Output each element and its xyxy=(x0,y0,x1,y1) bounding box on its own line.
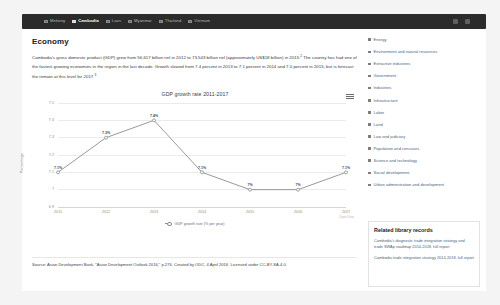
sidebar-topic-label: Labor xyxy=(374,110,384,116)
chart-plot-area: 7.57.47.37.27.176.9 7.1%7.3%7.4%7.1%7%7%… xyxy=(58,103,346,207)
data-point-label: 7.1% xyxy=(54,166,62,170)
x-tick-label: 2016 xyxy=(294,210,302,214)
nav-tab-laos[interactable]: Laos xyxy=(106,19,121,23)
bullet-icon xyxy=(368,147,371,150)
data-point-label: 7% xyxy=(247,183,252,187)
x-tick-label: 2017 xyxy=(342,210,350,214)
sidebar-topic-labor[interactable]: Labor xyxy=(368,110,480,116)
sidebar-topic-label: Industries xyxy=(374,85,392,91)
related-records-list: Cambodia's diagnostic trade integration … xyxy=(374,238,474,261)
nav-tab-label: Cambodia xyxy=(78,19,99,23)
bullet-icon xyxy=(368,123,371,126)
y-tick-label: 7.5 xyxy=(49,101,54,105)
data-point-label: 7% xyxy=(295,183,300,187)
flag-icon xyxy=(106,20,110,23)
sidebar-topic-label: Extractive industries xyxy=(374,61,411,67)
source-divider xyxy=(32,257,356,258)
sidebar-topic-government[interactable]: Government xyxy=(368,73,480,79)
country-tabs: MekongCambodiaLaosMyanmarThailandVietnam xyxy=(44,19,210,23)
nav-tab-mekong[interactable]: Mekong xyxy=(44,19,65,23)
sidebar-topic-extractive-industries[interactable]: Extractive industries xyxy=(368,61,480,67)
sidebar-topic-industries[interactable]: Industries xyxy=(368,85,480,91)
bullet-icon xyxy=(368,75,371,78)
flag-icon xyxy=(128,20,132,23)
y-tick-label: 7.4 xyxy=(49,118,54,122)
bullet-icon xyxy=(368,51,371,54)
y-tick-label: 7.3 xyxy=(49,135,54,139)
sidebar-topic-environment-and-natural-resources[interactable]: Environment and natural resources xyxy=(368,49,480,55)
nav-tab-vietnam[interactable]: Vietnam xyxy=(188,19,210,23)
hamburger-menu-icon[interactable] xyxy=(346,93,354,100)
sidebar-topic-science-and-technology[interactable]: Science and technology xyxy=(368,158,480,164)
nav-tab-label: Vietnam xyxy=(194,19,210,23)
sidebar-topic-label: Social development xyxy=(374,170,410,176)
y-tick-label: 6.9 xyxy=(49,205,54,209)
flag-icon xyxy=(159,20,163,23)
chart-line-series xyxy=(58,103,346,207)
x-tick-label: 2012 xyxy=(102,210,110,214)
chart-credit: Open Data xyxy=(339,215,354,219)
x-tick-label: 2014 xyxy=(198,210,206,214)
page-root: MekongCambodiaLaosMyanmarThailandVietnam… xyxy=(0,0,500,305)
top-navigation-bar: MekongCambodiaLaosMyanmarThailandVietnam xyxy=(22,14,486,29)
chart-title: GDP growth rate 2011-2017 xyxy=(32,91,358,97)
sidebar-topic-label: Urban administration and development xyxy=(374,182,444,188)
bullet-icon xyxy=(368,159,371,162)
legend-swatch-icon xyxy=(165,223,171,224)
menu-icon[interactable] xyxy=(465,19,470,24)
x-tick-label: 2011 xyxy=(54,210,62,214)
content-card: Economy Cambodia's gross domestic produc… xyxy=(22,29,486,291)
y-axis-title: Percentage xyxy=(20,152,24,172)
nav-tab-myanmar[interactable]: Myanmar xyxy=(128,19,152,23)
y-tick-label: 7.2 xyxy=(49,153,54,157)
bullet-icon xyxy=(368,63,371,66)
sidebar-topic-label: Energy xyxy=(374,37,387,43)
intro-paragraph: Cambodia's gross domestic product (GDP) … xyxy=(32,53,360,82)
sidebar-topic-label: Science and technology xyxy=(374,158,417,164)
sidebar-topic-law-and-judiciary[interactable]: Law and judiciary xyxy=(368,134,480,140)
bullet-icon xyxy=(368,111,371,114)
nav-tab-label: Myanmar xyxy=(134,19,152,23)
sidebar-topic-label: Land xyxy=(374,122,383,128)
x-axis-labels: 2011201220132014201520162017 xyxy=(58,210,346,218)
main-column: Economy Cambodia's gross domestic produc… xyxy=(30,33,362,287)
sidebar-topic-population-and-censuses[interactable]: Population and censuses xyxy=(368,146,480,152)
x-tick-label: 2015 xyxy=(246,210,254,214)
related-record-link[interactable]: Cambodia's diagnostic trade integration … xyxy=(374,238,474,250)
flag-icon xyxy=(72,20,76,23)
sidebar-topic-social-development[interactable]: Social development xyxy=(368,170,480,176)
data-point-label: 7.1% xyxy=(198,166,206,170)
data-point-label: 7.3% xyxy=(102,131,110,135)
related-records-title: Related library records xyxy=(374,227,474,233)
nav-tab-thailand[interactable]: Thailand xyxy=(159,19,182,23)
nav-tab-label: Mekong xyxy=(50,19,65,23)
flag-icon xyxy=(188,20,192,23)
bullet-icon xyxy=(368,184,371,187)
sidebar-topic-infrastructure[interactable]: Infrastructure xyxy=(368,98,480,104)
chart-legend: GDP growth rate (% per year) xyxy=(32,222,358,226)
bullet-icon xyxy=(368,172,371,175)
sidebar-topic-label: Environment and natural resources xyxy=(374,49,438,55)
nav-tab-cambodia[interactable]: Cambodia xyxy=(72,19,99,23)
legend-label: GDP growth rate (% per year) xyxy=(174,222,224,226)
page-title: Economy xyxy=(32,37,362,46)
y-tick-label: 7 xyxy=(52,187,54,191)
bullet-icon xyxy=(368,99,371,102)
sidebar-topic-urban-administration-and-development[interactable]: Urban administration and development xyxy=(368,182,480,188)
sidebar-topic-label: Government xyxy=(374,73,397,79)
nav-tab-label: Laos xyxy=(112,19,121,23)
flag-icon xyxy=(44,20,48,23)
search-icon[interactable] xyxy=(453,19,458,24)
nav-tab-label: Thailand xyxy=(165,19,182,23)
sidebar-topic-energy[interactable]: Energy xyxy=(368,37,480,43)
footnote-ref-3[interactable]: 3 xyxy=(94,73,96,77)
sidebar-topic-label: Law and judiciary xyxy=(374,134,406,140)
data-point-label: 7.4% xyxy=(150,114,158,118)
sidebar-topic-land[interactable]: Land xyxy=(368,122,480,128)
x-axis-line xyxy=(58,207,346,208)
source-caption: Source: Asian Development Bank, "Asian D… xyxy=(32,261,356,269)
navbar-right-icons xyxy=(453,19,480,24)
topic-list: EnergyEnvironment and natural resourcesE… xyxy=(368,37,480,188)
x-tick-label: 2013 xyxy=(150,210,158,214)
related-record-link[interactable]: Cambodia trade integration strategy 2014… xyxy=(374,255,474,261)
